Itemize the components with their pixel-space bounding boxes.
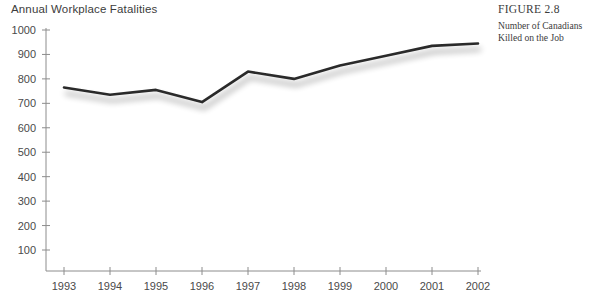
x-axis-tick-label: 1993 <box>41 280 87 292</box>
y-axis-tick-label: 400 <box>2 171 36 183</box>
y-axis-tick-label: 800 <box>2 73 36 85</box>
x-axis-tick-label: 1995 <box>133 280 179 292</box>
x-axis-tick-label: 1999 <box>317 280 363 292</box>
y-axis-tick-label: 300 <box>2 195 36 207</box>
y-axis-tick-label: 1000 <box>2 24 36 36</box>
x-axis-tick-label: 2002 <box>455 280 501 292</box>
y-axis-tick-label: 100 <box>2 244 36 256</box>
x-axis-tick-label: 2000 <box>363 280 409 292</box>
x-axis-tick-label: 2001 <box>409 280 455 292</box>
figure-root: Annual Workplace Fatalities FIGURE 2.8 N… <box>0 0 598 306</box>
y-axis-tick-label: 500 <box>2 146 36 158</box>
x-axis-tick-label: 1994 <box>87 280 133 292</box>
y-axis-tick-label: 200 <box>2 220 36 232</box>
line-chart-plot-area: 1002003004005006007008009001000199319941… <box>0 0 598 306</box>
y-axis-tick-label: 700 <box>2 97 36 109</box>
x-axis-tick-label: 1998 <box>271 280 317 292</box>
y-axis-tick-label: 900 <box>2 48 36 60</box>
data-series-line <box>64 43 478 102</box>
x-axis-tick-label: 1997 <box>225 280 271 292</box>
y-axis-tick-label: 600 <box>2 122 36 134</box>
chart-svg <box>0 0 598 306</box>
x-axis-tick-label: 1996 <box>179 280 225 292</box>
